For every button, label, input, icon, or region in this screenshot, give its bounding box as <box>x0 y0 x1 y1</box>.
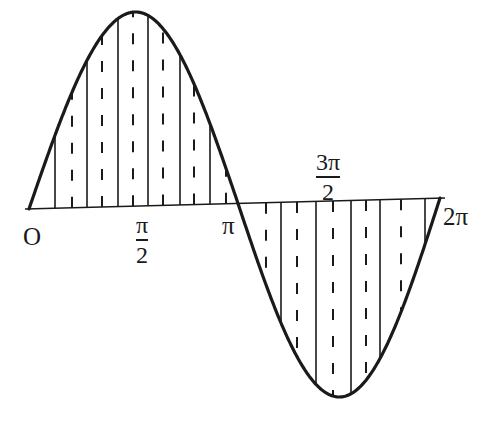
origin-label: O <box>23 224 41 249</box>
sine-plot <box>0 0 490 423</box>
sine-curve <box>29 12 440 397</box>
half-pi-numerator: π <box>136 213 148 237</box>
two-pi-label: 2π <box>443 204 468 229</box>
three-half-pi-numerator: 3π <box>316 150 340 174</box>
pi-label: π <box>222 213 235 238</box>
x-axis <box>25 198 445 209</box>
half-pi-label: π 2 <box>136 213 148 267</box>
fraction-bar <box>136 239 148 241</box>
three-half-pi-denominator: 2 <box>322 180 334 204</box>
fraction-bar <box>316 176 340 178</box>
three-half-pi-label: 3π 2 <box>316 150 340 204</box>
sine-wave-diagram: O π 2 π 3π 2 2π <box>0 0 490 423</box>
half-pi-denominator: 2 <box>136 243 148 267</box>
